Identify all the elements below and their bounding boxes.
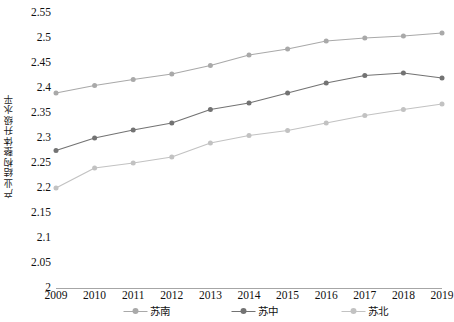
data-point [401, 107, 406, 112]
legend-item[interactable]: 苏南 [123, 303, 170, 319]
y-axis-tick-label: 2.2 [37, 182, 51, 194]
x-axis-tick-label: 2009 [45, 290, 68, 302]
data-point [401, 71, 406, 76]
data-point [440, 102, 445, 107]
data-point [54, 186, 59, 191]
data-point [131, 77, 136, 82]
y-axis-tick-label: 2.5 [37, 32, 51, 44]
data-point [131, 128, 136, 133]
x-axis-tick-label: 2012 [160, 290, 183, 302]
data-point [362, 36, 367, 41]
data-point [362, 73, 367, 78]
data-point [169, 121, 174, 126]
x-axis-tick-label: 2010 [83, 290, 106, 302]
y-axis-tick-label: 2.35 [31, 107, 51, 119]
chart-legend: 苏南苏中苏北 [56, 303, 442, 322]
x-axis-tick-label: 2013 [199, 290, 222, 302]
y-axis-tick-label: 2.1 [37, 232, 51, 244]
data-point [169, 155, 174, 160]
legend-marker-icon [231, 306, 255, 316]
series-line [56, 104, 442, 188]
data-point [247, 53, 252, 58]
y-axis-tick-label: 2.05 [31, 257, 51, 269]
x-axis-tick-label: 2015 [276, 290, 299, 302]
data-point [401, 34, 406, 39]
data-point [208, 63, 213, 68]
data-point [92, 166, 97, 171]
legend-item[interactable]: 苏北 [341, 303, 388, 319]
x-axis-tick-label: 2011 [122, 290, 145, 302]
y-axis-tick-label: 2.15 [31, 207, 51, 219]
data-point [54, 91, 59, 96]
legend-marker-icon [341, 306, 365, 316]
data-point [208, 141, 213, 146]
x-axis-tick-label: 2018 [392, 290, 415, 302]
legend-label: 苏中 [258, 306, 278, 317]
data-point [440, 31, 445, 36]
data-point [247, 133, 252, 138]
y-axis-tick-label: 2.45 [31, 57, 51, 69]
y-axis-tick-label: 2.4 [37, 82, 51, 94]
data-point [285, 47, 290, 52]
y-axis-title-text: 产业结构整体升级水平 [2, 93, 16, 198]
series-canvas [56, 13, 442, 288]
plot-area [56, 13, 442, 288]
legend-marker-icon [123, 306, 147, 316]
data-point [324, 81, 329, 86]
series-line [56, 33, 442, 93]
x-axis-tick-label: 2014 [238, 290, 261, 302]
data-point [169, 72, 174, 77]
series-3 [54, 102, 445, 191]
legend-item[interactable]: 苏中 [231, 303, 278, 319]
data-point [208, 107, 213, 112]
data-point [324, 39, 329, 44]
data-point [440, 76, 445, 81]
legend-label: 苏北 [368, 306, 388, 317]
y-axis-tick-label: 2.55 [31, 7, 51, 19]
data-point [247, 101, 252, 106]
series-line [56, 73, 442, 151]
data-point [324, 121, 329, 126]
y-axis-tick-label: 2.25 [31, 157, 51, 169]
y-axis-tick-labels: 22.052.12.152.22.252.32.352.42.452.52.55 [18, 0, 54, 296]
data-point [285, 128, 290, 133]
x-axis-tick-label: 2019 [431, 290, 454, 302]
y-axis-tick-label: 2.3 [37, 132, 51, 144]
x-axis-tick-label: 2016 [315, 290, 338, 302]
legend-label: 苏南 [150, 306, 170, 317]
x-axis-tick-label: 2017 [353, 290, 376, 302]
data-point [285, 91, 290, 96]
data-point [131, 161, 136, 166]
data-point [92, 83, 97, 88]
series-1 [54, 31, 445, 96]
data-point [92, 136, 97, 141]
data-point [54, 148, 59, 153]
data-point [362, 113, 367, 118]
y-axis-title: 产业结构整体升级水平 [0, 0, 18, 290]
